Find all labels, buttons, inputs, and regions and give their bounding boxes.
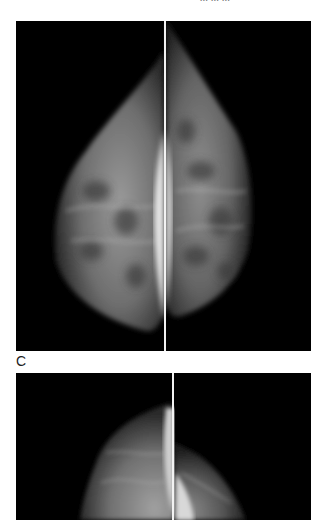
mammogram-bottom-image <box>16 373 311 520</box>
panel-divider <box>164 21 166 351</box>
panel-divider <box>172 373 174 520</box>
header-text-fragment: ... ... ... <box>200 0 230 3</box>
panel-label: C <box>16 353 26 369</box>
mammogram-panel-top <box>16 21 311 351</box>
mammogram-panel-bottom <box>16 373 311 520</box>
